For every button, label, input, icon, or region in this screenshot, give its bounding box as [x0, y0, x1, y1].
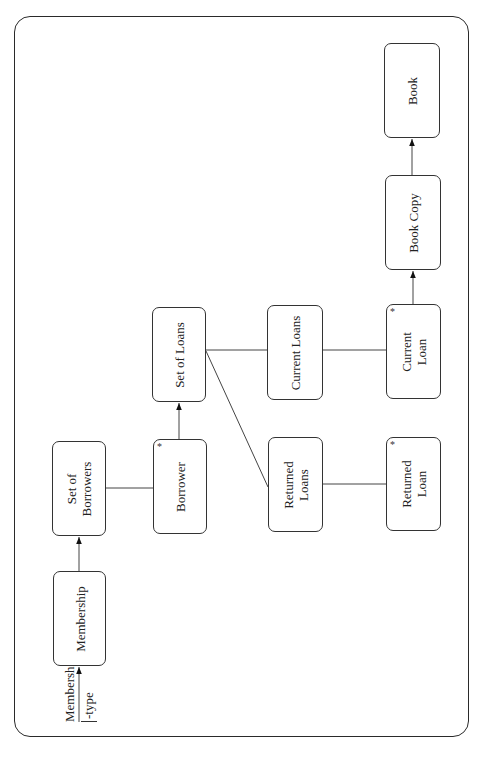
edge-set-of-loans-to-returned-loans — [206, 351, 268, 487]
node-book: Book — [384, 43, 440, 138]
node-label: Membership — [72, 586, 87, 652]
node-current-loan: * Current Loan — [386, 304, 441, 399]
multiplicity-star: * — [390, 306, 395, 317]
node-set-of-loans: Set of Loans — [152, 307, 206, 402]
node-set-of-borrowers: Set of Borrowers — [52, 441, 106, 536]
node-label: Returned Loans — [281, 461, 311, 509]
node-returned-loan: * Returned Loan — [386, 437, 441, 531]
multiplicity-star: * — [157, 441, 162, 452]
node-label: Set of Loans — [172, 322, 187, 388]
node-returned-loans: Returned Loans — [268, 437, 323, 532]
node-label: Current Loans — [288, 315, 303, 390]
multiplicity-star: * — [390, 439, 395, 450]
node-membership: Membership — [53, 571, 106, 666]
node-label: Current Loan — [399, 332, 429, 372]
node-label: Returned Loan — [399, 460, 429, 508]
membership-type-label-line2: -type — [81, 692, 97, 722]
node-label: Borrower — [173, 462, 188, 512]
node-label: Set of Borrowers — [64, 461, 94, 516]
node-borrower: * Borrower — [153, 439, 207, 534]
node-book-copy: Book Copy — [385, 175, 441, 270]
node-current-loans: Current Loans — [267, 305, 323, 400]
membership-type-label-line1: Membership — [62, 656, 78, 722]
node-label: Book Copy — [406, 193, 421, 253]
node-label: Book — [405, 76, 420, 104]
